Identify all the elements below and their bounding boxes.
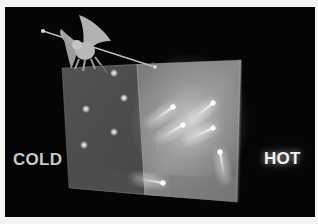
- cold-label: COLD: [13, 151, 62, 168]
- illustration-frame: COLD HOT: [5, 7, 315, 217]
- hot-label: HOT: [264, 150, 301, 167]
- maxwell-demon-scene: [5, 7, 315, 217]
